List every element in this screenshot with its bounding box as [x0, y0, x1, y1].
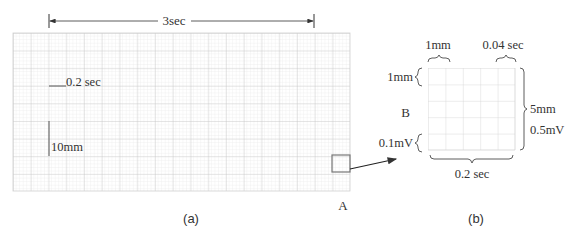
zoom-arrow: [350, 159, 396, 169]
brace-left-top: [415, 68, 422, 86]
ecg-paper-figure: 3sec 0.2 sec 10mm A (a) 1mm: [0, 0, 581, 239]
region-b-label: B: [401, 105, 410, 120]
caption-a: (a): [183, 211, 199, 226]
horizontal-scale-label: 0.2 sec: [66, 75, 101, 89]
left-bottom-label: 0.1mV: [379, 136, 413, 150]
top-right-label: 0.04 sec: [483, 38, 524, 52]
region-a-label: A: [338, 198, 348, 213]
panel-a: 3sec 0.2 sec 10mm A (a): [13, 13, 350, 226]
panel-b: 1mm 0.04 sec 1mm B 0.1mV 5mm 0.5mV 0.2 s…: [379, 38, 565, 226]
span-label: 3sec: [162, 13, 185, 28]
ecg-grid-a: [13, 33, 350, 191]
caption-b: (b): [468, 211, 484, 226]
brace-top-left: [428, 55, 450, 62]
brace-right: [520, 68, 527, 150]
vertical-scale-label: 10mm: [51, 140, 83, 154]
brace-bottom: [430, 155, 513, 163]
right-label-height: 5mm: [530, 102, 556, 116]
bottom-label: 0.2 sec: [455, 167, 490, 181]
top-left-label: 1mm: [425, 38, 451, 52]
span-dimension-3sec: 3sec: [49, 13, 314, 28]
right-label-voltage: 0.5mV: [530, 123, 564, 137]
ecg-grid-b: [428, 68, 515, 150]
brace-left-bottom: [415, 134, 422, 152]
left-top-label: 1mm: [387, 70, 413, 84]
brace-top-right: [496, 55, 516, 62]
